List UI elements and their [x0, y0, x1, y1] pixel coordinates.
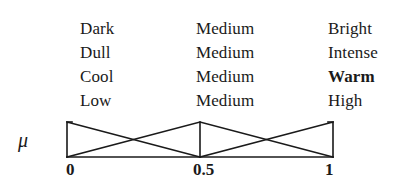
term-high-row-3: High	[328, 89, 362, 112]
fuzzy-membership-figure: Dark Medium Bright Dull Medium Intense C…	[0, 0, 400, 184]
linguistic-term-table: Dark Medium Bright Dull Medium Intense C…	[0, 0, 400, 120]
table-row: Cool Medium Warm	[0, 65, 400, 89]
table-row: Low Medium High	[0, 89, 400, 113]
membership-function-plot	[60, 116, 344, 164]
term-low-row-0: Dark	[80, 17, 114, 40]
term-high-row-1: Intense	[328, 41, 378, 64]
term-low-row-3: Low	[80, 89, 111, 112]
table-row: Dark Medium Bright	[0, 17, 400, 41]
table-row: Dull Medium Intense	[0, 41, 400, 65]
term-medium-row-3: Medium	[196, 89, 254, 112]
term-high-row-0: Bright	[328, 17, 372, 40]
term-low-row-2: Cool	[80, 65, 113, 88]
axis-tick-0: 0	[66, 160, 75, 180]
membership-axis-symbol: μ	[18, 128, 28, 152]
axis-tick-1: 1	[325, 160, 334, 180]
term-medium-row-1: Medium	[196, 41, 254, 64]
axis-tick-0-5: 0.5	[193, 160, 214, 180]
term-low-row-1: Dull	[80, 41, 111, 64]
term-medium-row-2: Medium	[196, 65, 254, 88]
term-high-row-2: Warm	[328, 65, 375, 88]
term-medium-row-0: Medium	[196, 17, 254, 40]
membership-function-svg	[60, 116, 344, 164]
